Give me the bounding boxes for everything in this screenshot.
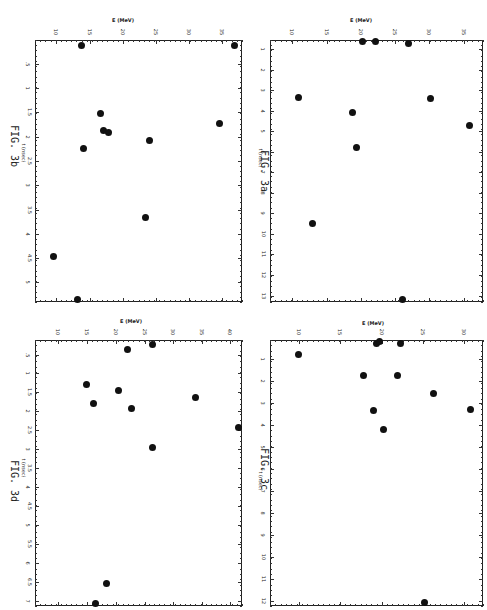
minor-tick xyxy=(414,40,415,42)
minor-tick xyxy=(483,340,484,342)
major-tick xyxy=(238,392,242,393)
major-tick xyxy=(479,513,483,514)
major-tick xyxy=(270,234,274,235)
minor-tick xyxy=(270,569,272,570)
minor-tick xyxy=(35,436,37,437)
minor-tick xyxy=(297,604,298,606)
minor-tick xyxy=(270,92,272,93)
minor-tick xyxy=(240,462,242,463)
minor-tick xyxy=(334,300,335,302)
major-tick xyxy=(479,535,483,536)
minor-tick xyxy=(270,430,272,431)
minor-tick xyxy=(329,340,330,342)
minor-tick xyxy=(240,45,242,46)
minor-tick xyxy=(481,569,483,570)
minor-tick xyxy=(35,590,37,591)
minor-tick xyxy=(350,300,351,302)
minor-tick xyxy=(361,340,362,342)
minor-tick xyxy=(35,292,37,293)
minor-tick xyxy=(440,604,441,606)
minor-tick xyxy=(481,462,483,463)
minor-tick xyxy=(240,478,242,479)
data-point xyxy=(370,407,377,414)
minor-tick xyxy=(270,87,272,88)
minor-tick xyxy=(451,40,452,42)
minor-tick xyxy=(226,340,227,342)
minor-tick xyxy=(149,604,150,606)
minor-tick xyxy=(240,92,242,93)
data-point xyxy=(359,38,366,45)
data-point xyxy=(405,40,412,47)
minor-tick xyxy=(240,297,242,298)
minor-tick xyxy=(211,40,212,42)
minor-tick xyxy=(35,71,37,72)
major-tick xyxy=(35,525,39,526)
major-tick xyxy=(58,340,59,344)
minor-tick xyxy=(270,377,272,378)
minor-tick xyxy=(240,585,242,586)
minor-tick xyxy=(195,340,196,342)
minor-tick xyxy=(302,604,303,606)
data-point xyxy=(74,296,81,303)
minor-tick xyxy=(483,300,484,302)
minor-tick xyxy=(481,223,483,224)
major-tick xyxy=(270,579,274,580)
energy-axis-title: E (MeV) xyxy=(362,320,384,326)
minor-tick xyxy=(481,92,483,93)
minor-tick xyxy=(35,457,37,458)
major-tick xyxy=(123,40,124,44)
major-tick xyxy=(479,469,483,470)
major-tick xyxy=(270,70,274,71)
minor-tick xyxy=(35,171,37,172)
major-tick xyxy=(479,403,483,404)
minor-tick xyxy=(270,218,272,219)
minor-tick xyxy=(240,108,242,109)
minor-tick xyxy=(240,187,242,188)
minor-tick xyxy=(270,229,272,230)
major-tick xyxy=(479,557,483,558)
minor-tick xyxy=(237,40,238,42)
minor-tick xyxy=(159,604,160,606)
minor-tick xyxy=(270,542,272,543)
minor-tick xyxy=(240,457,242,458)
major-tick xyxy=(35,392,39,393)
minor-tick xyxy=(45,40,46,42)
minor-tick xyxy=(481,590,483,591)
energy-tick-label: 30 xyxy=(426,29,432,35)
minor-tick xyxy=(307,604,308,606)
minor-tick xyxy=(180,40,181,42)
minor-tick xyxy=(481,409,483,410)
minor-tick xyxy=(481,103,483,104)
minor-tick xyxy=(211,604,212,606)
minor-tick xyxy=(113,40,114,42)
minor-tick xyxy=(61,300,62,302)
minor-tick xyxy=(240,181,242,182)
minor-tick xyxy=(118,300,119,302)
minor-tick xyxy=(313,40,314,42)
minor-tick xyxy=(206,300,207,302)
minor-tick xyxy=(270,202,272,203)
minor-tick xyxy=(240,124,242,125)
minor-tick xyxy=(61,40,62,42)
minor-tick xyxy=(481,129,483,130)
minor-tick xyxy=(35,140,37,141)
minor-tick xyxy=(240,255,242,256)
minor-tick xyxy=(483,40,484,42)
data-point xyxy=(235,424,242,431)
minor-tick xyxy=(35,192,37,193)
data-point xyxy=(394,372,401,379)
minor-tick xyxy=(35,82,37,83)
minor-tick xyxy=(35,345,37,346)
major-tick xyxy=(58,602,59,606)
major-tick xyxy=(464,340,465,344)
minor-tick xyxy=(240,176,242,177)
minor-tick xyxy=(240,574,242,575)
energy-tick-label: 40 xyxy=(227,329,233,335)
minor-tick xyxy=(481,473,483,474)
minor-tick xyxy=(240,250,242,251)
minor-tick xyxy=(35,420,37,421)
minor-tick xyxy=(118,604,119,606)
minor-tick xyxy=(275,40,276,42)
minor-tick xyxy=(240,361,242,362)
minor-tick xyxy=(270,595,272,596)
